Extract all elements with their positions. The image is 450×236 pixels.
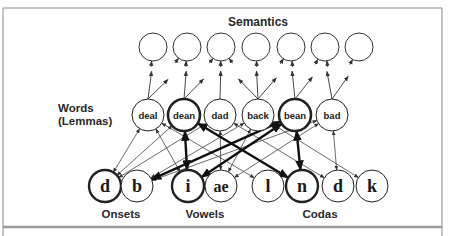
phoneme-node-on_d: d xyxy=(89,170,121,202)
word-to-semantic-arrows xyxy=(148,58,353,99)
semantic-input-arrowhead xyxy=(350,59,353,64)
semantic-node xyxy=(345,33,373,61)
word-node-label: bad xyxy=(324,110,341,121)
word-phoneme-link xyxy=(113,129,139,173)
word-node-deal: deal xyxy=(132,99,164,131)
word-semantic-arrow xyxy=(184,71,186,99)
word-semantic-arrow xyxy=(220,71,221,99)
onsets-label: Onsets xyxy=(102,208,141,220)
lexical-network-diagram: Semantics Words (Lemmas) dealdeandadback… xyxy=(0,0,450,236)
phoneme-node-c_l: l xyxy=(252,170,284,202)
semantic-node xyxy=(242,33,270,61)
word-node-label: dad xyxy=(212,110,229,121)
phoneme-node-label: d xyxy=(333,176,343,196)
word-semantic-arrow xyxy=(295,77,312,99)
lemmas-label: (Lemmas) xyxy=(58,115,112,127)
phoneme-node-label: k xyxy=(367,176,377,196)
semantic-input-arrowhead xyxy=(280,59,283,64)
word-node-dean: dean xyxy=(168,99,200,131)
word-semantic-arrow xyxy=(327,71,332,99)
word-semantic-arrow xyxy=(292,71,295,99)
word-semantic-arrow xyxy=(148,71,152,99)
semantic-node xyxy=(173,33,201,61)
codas-label: Codas xyxy=(302,208,337,220)
word-semantic-arrow xyxy=(257,71,258,99)
semantic-input-arrowhead xyxy=(175,58,179,63)
phoneme-node-label: n xyxy=(297,176,307,196)
semantic-nodes xyxy=(139,33,373,61)
word-phoneme-link xyxy=(151,123,244,178)
semantic-node xyxy=(277,33,305,61)
word-node-label: deal xyxy=(138,110,157,121)
phoneme-node-label: d xyxy=(100,176,110,196)
phoneme-node-c_d: d xyxy=(322,170,354,202)
semantic-node xyxy=(139,33,167,61)
word-node-bean: bean xyxy=(279,99,311,131)
word-semantic-arrow xyxy=(148,79,168,99)
semantic-input-arrowhead xyxy=(327,61,328,67)
phoneme-node-c_k: k xyxy=(356,170,388,202)
phoneme-node-label: i xyxy=(185,176,190,196)
word-node-bad: bad xyxy=(316,99,348,131)
word-phoneme-link xyxy=(117,126,172,176)
phoneme-node-v_ae: ae xyxy=(205,170,237,202)
word-semantic-arrow xyxy=(184,79,204,99)
word-phoneme-link xyxy=(156,129,180,172)
phoneme-node-label: b xyxy=(132,176,142,196)
words-label: Words xyxy=(58,102,94,114)
word-phoneme-link xyxy=(333,131,336,170)
word-node-label: bean xyxy=(284,110,306,121)
word-node-back: back xyxy=(242,99,274,131)
semantic-input-arrowhead xyxy=(209,58,212,63)
word-semantic-arrow xyxy=(332,76,348,99)
word-semantic-arrow xyxy=(258,78,276,99)
phoneme-node-c_n: n xyxy=(286,170,318,202)
vowels-label: Vowels xyxy=(186,208,225,220)
word-phoneme-link xyxy=(119,123,207,177)
word-nodes: dealdeandadbackbeanbad xyxy=(132,99,348,131)
semantics-title: Semantics xyxy=(228,15,288,29)
phoneme-node-label: ae xyxy=(213,178,228,195)
phoneme-node-v_i: i xyxy=(172,170,204,202)
semantic-input-arrowhead xyxy=(229,58,232,63)
phoneme-node-on_b: b xyxy=(121,170,153,202)
word-semantic-arrow xyxy=(238,79,258,99)
semantic-node xyxy=(207,33,235,61)
word-node-dad: dad xyxy=(204,99,236,131)
semantic-input-arrowhead xyxy=(151,61,152,67)
semantic-node xyxy=(311,33,339,61)
phoneme-node-label: l xyxy=(265,176,270,196)
word-phoneme-link xyxy=(272,123,359,177)
word-node-label: back xyxy=(247,110,269,121)
semantic-input-arrowhead xyxy=(315,59,318,64)
word-node-label: dean xyxy=(173,110,195,121)
